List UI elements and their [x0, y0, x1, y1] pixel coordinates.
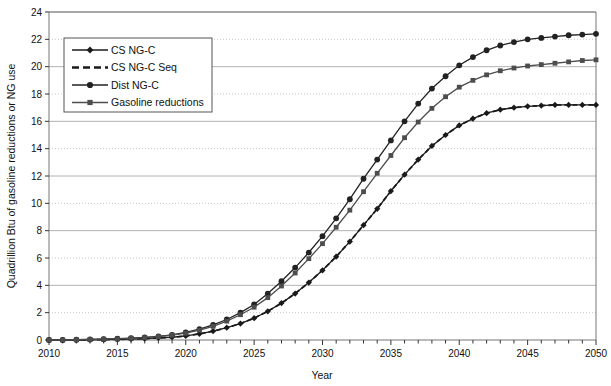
y-tick-label: 2 [36, 307, 42, 318]
x-tick-label: 2010 [38, 348, 61, 359]
data-point [224, 319, 229, 324]
data-point [60, 338, 65, 343]
x-tick-label: 2030 [311, 348, 334, 359]
data-point [115, 337, 120, 342]
data-point [456, 62, 462, 68]
y-tick-label: 18 [31, 89, 43, 100]
data-point [525, 64, 530, 69]
data-point [293, 271, 298, 276]
data-point [320, 233, 326, 239]
x-tick-label: 2015 [106, 348, 129, 359]
legend-marker-sample [87, 100, 92, 105]
x-axis-title: Year [311, 369, 333, 381]
data-point [553, 61, 558, 66]
data-point [211, 324, 216, 329]
data-point [170, 333, 175, 338]
data-point [566, 32, 572, 38]
data-point [265, 295, 270, 300]
data-point [374, 157, 380, 163]
data-point [484, 47, 490, 53]
data-point [238, 312, 243, 317]
y-tick-label: 6 [36, 253, 42, 264]
data-point [594, 57, 599, 62]
data-point [320, 241, 325, 246]
data-point [539, 62, 544, 67]
data-point [142, 335, 147, 340]
data-point [292, 265, 298, 271]
data-point [347, 196, 353, 202]
data-point [347, 208, 352, 213]
data-point [402, 118, 408, 124]
data-point [470, 54, 476, 60]
y-tick-label: 20 [31, 61, 43, 72]
data-point [101, 337, 106, 342]
data-point [183, 331, 188, 336]
data-point [525, 36, 531, 42]
data-point [306, 250, 312, 256]
y-tick-label: 8 [36, 225, 42, 236]
data-point [538, 35, 544, 41]
y-tick-label: 10 [31, 198, 43, 209]
data-point [252, 305, 257, 310]
legend-item-label: CS NG-C Seq [111, 61, 177, 73]
x-tick-label: 2040 [448, 348, 471, 359]
y-tick-label: 16 [31, 116, 43, 127]
data-point [430, 106, 435, 111]
legend-item-label: Gasoline reductions [111, 96, 204, 108]
legend-marker-sample [87, 82, 93, 88]
y-tick-label: 24 [31, 7, 43, 18]
x-tick-label: 2025 [243, 348, 266, 359]
data-point [156, 334, 161, 339]
x-tick-label: 2035 [380, 348, 403, 359]
data-point [511, 39, 517, 45]
data-point [552, 34, 558, 40]
data-point [484, 72, 489, 77]
data-point [579, 32, 585, 38]
y-tick-label: 4 [36, 280, 42, 291]
y-axis-title: Quadrillion Btu of gasoline reductions o… [5, 63, 17, 288]
data-point [388, 153, 393, 158]
y-tick-label: 0 [36, 335, 42, 346]
data-point [333, 215, 339, 221]
data-point [388, 138, 394, 144]
data-point [375, 171, 380, 176]
chart-legend: CS NG-CCS NG-C SeqDist NG-CGasoline redu… [64, 38, 212, 112]
data-point [429, 86, 435, 92]
data-point [443, 73, 449, 79]
data-point [566, 59, 571, 64]
data-point [361, 176, 367, 182]
data-point [74, 337, 79, 342]
y-tick-label: 12 [31, 171, 43, 182]
legend-item-label: CS NG-C [111, 44, 156, 56]
data-point [471, 78, 476, 83]
data-point [498, 68, 503, 73]
x-tick-label: 2050 [585, 348, 608, 359]
data-point [497, 43, 503, 49]
x-tick-label: 2020 [175, 348, 198, 359]
chart-container: 024681012141618202224 201020152020202520… [0, 0, 611, 386]
line-chart: 024681012141618202224 201020152020202520… [0, 0, 611, 386]
data-point [402, 135, 407, 140]
data-point [197, 328, 202, 333]
data-point [580, 58, 585, 63]
data-point [457, 85, 462, 90]
data-point [334, 225, 339, 230]
data-point [279, 284, 284, 289]
data-point [415, 101, 421, 107]
data-point [443, 94, 448, 99]
data-point [88, 337, 93, 342]
x-tick-label: 2045 [517, 348, 540, 359]
data-point [593, 31, 599, 37]
y-tick-label: 22 [31, 34, 43, 45]
y-tick-label: 14 [31, 143, 43, 154]
data-point [361, 189, 366, 194]
legend-item-label: Dist NG-C [111, 79, 159, 91]
data-point [306, 256, 311, 261]
data-point [512, 66, 517, 71]
data-point [129, 336, 134, 341]
data-point [47, 338, 52, 343]
data-point [416, 120, 421, 125]
